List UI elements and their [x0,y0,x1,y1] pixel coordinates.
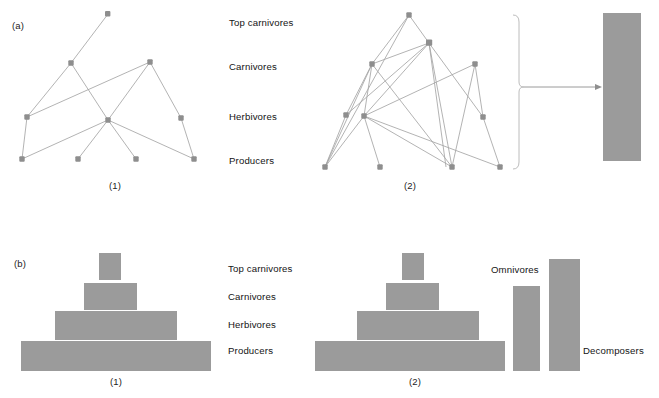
caption-a-2: (2) [380,180,440,191]
pyramid-2-bar-herbivores [357,311,479,340]
tier-label-top-carnivores-a: Top carnivores [229,17,294,28]
web-2-edges [325,15,500,167]
pyramid-1-bar-carnivores [84,283,137,310]
panel-b-tag: (b) [14,258,26,269]
tier-label-carnivores-a: Carnivores [229,61,277,72]
caption-a-1: (1) [85,180,145,191]
tier-label-herbivores-a: Herbivores [229,111,277,122]
caption-b-2: (2) [385,376,445,387]
pyramid-1-bar-top-carnivores [99,253,121,280]
pyramid-2-bar-producers [315,341,505,371]
tier-label-herbivores-b: Herbivores [228,319,276,330]
side-bar-omnivores [513,286,540,371]
caption-b-1: (1) [86,376,146,387]
pyramid-1-bar-herbivores [55,311,177,340]
web-1-nodes [19,11,196,162]
tier-label-producers-b: Producers [228,345,273,356]
web-1-edges [22,14,194,159]
tier-label-top-carnivores-b: Top carnivores [228,263,293,274]
pyramid-2-bar-top-carnivores [402,253,424,280]
aggregate-biomass-block [603,13,641,161]
label-omnivores: Omnivores [491,264,539,275]
pyramid-2-bar-carnivores [386,283,439,310]
side-bar-decomposers [549,259,580,371]
aggregation-arrow [524,84,602,90]
label-decomposers: Decomposers [583,345,644,356]
aggregation-bracket [513,15,524,169]
pyramid-1-bar-producers [21,341,211,371]
tier-label-carnivores-b: Carnivores [228,291,276,302]
web-2-nodes [322,12,502,169]
panel-a-tag: (a) [12,20,24,31]
tier-label-producers-a: Producers [229,155,274,166]
